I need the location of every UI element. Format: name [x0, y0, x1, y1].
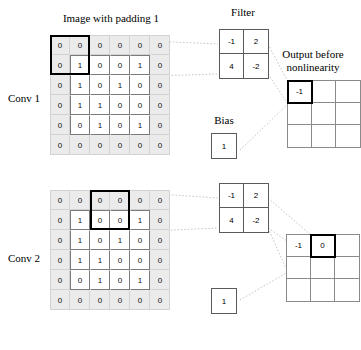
image-cell: 0: [150, 190, 170, 210]
image-cell: 1: [110, 230, 130, 250]
image-cell: 0: [150, 135, 170, 155]
output-cell: [288, 125, 312, 147]
image-cell: 1: [70, 75, 90, 95]
image-cell: 0: [130, 190, 150, 210]
image-cell: 0: [50, 270, 70, 290]
image-cell: 0: [130, 135, 150, 155]
image-cell: 0: [70, 290, 90, 310]
conv1-bias-box: 1: [211, 133, 237, 159]
image-cell: 0: [50, 230, 70, 250]
conv2-filter-grid: -1 2 4 -2: [219, 183, 269, 233]
image-cell: 0: [90, 75, 110, 95]
image-cell: 0: [130, 75, 150, 95]
image-cell: 0: [150, 230, 170, 250]
image-cell: 0: [110, 95, 130, 115]
image-cell: 0: [110, 35, 130, 55]
conv1-filter-grid: -1 2 4 -2: [219, 29, 269, 79]
image-cell: 1: [130, 270, 150, 290]
output-cell: [312, 103, 336, 125]
image-cell: 0: [150, 95, 170, 115]
output-cell: [335, 279, 359, 301]
image-cell: 0: [70, 115, 90, 135]
image-cell: 1: [90, 270, 110, 290]
output-cell: [287, 257, 311, 279]
output-title-line1: Output before: [282, 48, 343, 60]
image-cell: 1: [110, 75, 130, 95]
conv1-label: Conv 1: [8, 92, 40, 104]
image-cell: 1: [70, 230, 90, 250]
conv2-label: Conv 2: [8, 252, 40, 264]
image-cell: 1: [130, 115, 150, 135]
image-cell: 0: [70, 190, 90, 210]
image-cell: 1: [130, 210, 150, 230]
image-cell: 0: [50, 210, 70, 230]
output-cell: [336, 103, 360, 125]
image-cell: 0: [150, 210, 170, 230]
image-cell: 1: [90, 115, 110, 135]
image-cell: 0: [50, 75, 70, 95]
output-cell: [312, 125, 336, 147]
image-cell: 0: [90, 35, 110, 55]
filter-cell: -2: [244, 208, 268, 232]
output-cell: -1: [287, 235, 311, 257]
image-cell: 0: [130, 95, 150, 115]
image-cell: 1: [70, 250, 90, 270]
image-cell: 0: [90, 230, 110, 250]
conv2-output-highlight: [310, 234, 336, 258]
output-cell: [311, 279, 335, 301]
filter-cell: 4: [220, 208, 244, 232]
image-cell: 1: [130, 55, 150, 75]
image-cell: 0: [50, 250, 70, 270]
image-cell: 0: [50, 190, 70, 210]
image-cell: 0: [110, 115, 130, 135]
output-cell: [288, 103, 312, 125]
image-cell: 0: [130, 290, 150, 310]
image-cell: 0: [110, 250, 130, 270]
image-cell: 0: [110, 55, 130, 75]
image-cell: 0: [50, 115, 70, 135]
image-cell: 0: [150, 75, 170, 95]
image-cell: 0: [50, 95, 70, 115]
image-cell: 0: [70, 270, 90, 290]
image-cell: 0: [150, 250, 170, 270]
image-cell: 0: [110, 135, 130, 155]
image-cell: 0: [90, 55, 110, 75]
image-cell: 1: [70, 95, 90, 115]
output-cell: [311, 257, 335, 279]
conv2-bias-box: 1: [211, 288, 237, 314]
image-cell: 0: [110, 270, 130, 290]
image-cell: 0: [130, 35, 150, 55]
image-cell: 0: [50, 290, 70, 310]
output-title-line2: nonlinearity: [286, 61, 339, 73]
bias-title-conv1: Bias: [201, 114, 247, 126]
filter-cell: -1: [220, 30, 244, 54]
image-padding-title: Image with padding 1: [46, 12, 176, 24]
filter-cell: 2: [244, 30, 268, 54]
output-title: Output before nonlinearity: [267, 48, 359, 73]
image-cell: 0: [90, 290, 110, 310]
image-cell: 0: [50, 135, 70, 155]
output-cell: [287, 279, 311, 301]
image-cell: 0: [130, 250, 150, 270]
filter-cell: -1: [220, 184, 244, 208]
output-cell: [335, 235, 359, 257]
output-cell: [336, 125, 360, 147]
output-cell: [335, 257, 359, 279]
filter-cell: 4: [220, 54, 244, 78]
image-cell: 0: [150, 270, 170, 290]
image-cell: 1: [70, 210, 90, 230]
image-cell: 0: [90, 135, 110, 155]
conv1-receptive-field-box: [50, 35, 90, 75]
image-cell: 1: [90, 95, 110, 115]
filter-title-conv1: Filter: [203, 6, 283, 18]
image-cell: 1: [90, 250, 110, 270]
filter-cell: -2: [244, 54, 268, 78]
image-cell: 0: [130, 230, 150, 250]
conv1-output-highlight: [287, 80, 313, 104]
output-cell: [336, 81, 360, 103]
image-cell: 0: [150, 55, 170, 75]
image-cell: 0: [110, 290, 130, 310]
output-cell: [312, 81, 336, 103]
image-cell: 0: [150, 35, 170, 55]
